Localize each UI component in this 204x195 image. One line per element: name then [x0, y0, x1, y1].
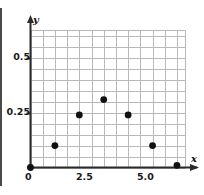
x-tick-label-2-5: 2.5 — [76, 172, 93, 182]
origin-tick-label: 0 — [25, 172, 32, 182]
data-point — [125, 111, 132, 118]
data-point — [76, 111, 83, 118]
x-axis-label: x — [191, 154, 197, 164]
scatter-plot-figure: y x 0.5 0.25 0 2.5 5.0 — [0, 0, 204, 195]
y-axis-label: y — [33, 15, 39, 25]
x-tick-label-5-0: 5.0 — [137, 172, 154, 182]
data-point — [149, 142, 156, 149]
data-point — [52, 142, 59, 149]
data-points — [27, 96, 180, 171]
y-tick-label-0-25: 0.25 — [0, 107, 30, 117]
y-tick-label-0-5: 0.5 — [4, 52, 30, 62]
data-point — [100, 96, 107, 103]
data-point — [174, 162, 181, 169]
data-point — [27, 164, 34, 171]
plot-canvas — [0, 0, 204, 195]
